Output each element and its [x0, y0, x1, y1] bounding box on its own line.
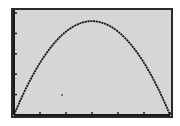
- calculator-graph-screen: [11, 8, 173, 118]
- graph-plot: [13, 10, 171, 116]
- parabola-curve: [14, 21, 170, 115]
- screen-artifact-dot: [61, 94, 63, 96]
